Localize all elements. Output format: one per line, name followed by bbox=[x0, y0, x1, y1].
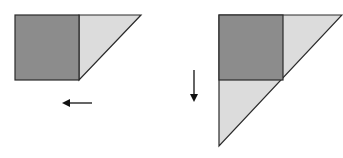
right-figure bbox=[194, 15, 342, 146]
diagram-canvas bbox=[0, 0, 343, 158]
left-dark-square bbox=[15, 15, 79, 80]
left-light-triangle bbox=[79, 15, 141, 80]
right-dark-square bbox=[219, 15, 283, 80]
left-figure bbox=[15, 15, 141, 103]
